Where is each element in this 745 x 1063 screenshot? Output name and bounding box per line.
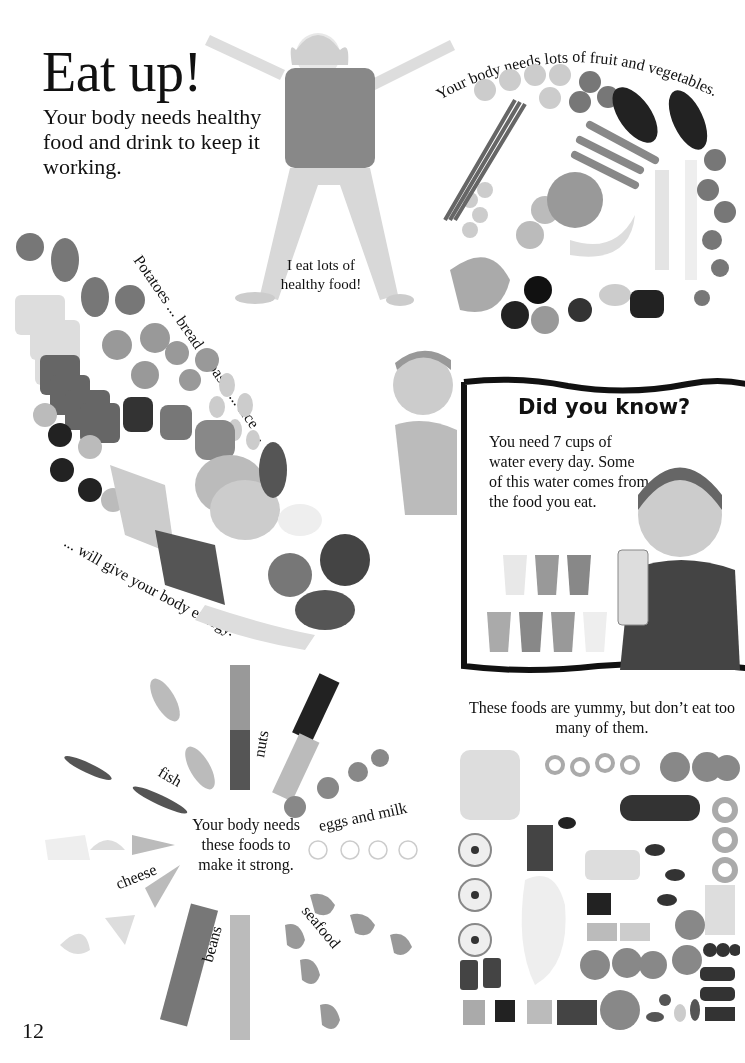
cup-icon [503, 555, 527, 595]
treats-caption: These foods are yummy, but don’t eat too… [462, 698, 742, 738]
strong-foods-center-text: Your body needs these foods to make it s… [186, 815, 306, 875]
cup-icon [567, 555, 591, 595]
page-title: Eat up! [42, 40, 202, 104]
cup-icon [535, 555, 559, 595]
did-you-know-title: Did you know? [518, 395, 690, 419]
cup-icon [583, 612, 607, 652]
page-number: 12 [22, 1018, 44, 1044]
cup-icon [551, 612, 575, 652]
cup-icon [519, 612, 543, 652]
cup-icon [487, 612, 511, 652]
